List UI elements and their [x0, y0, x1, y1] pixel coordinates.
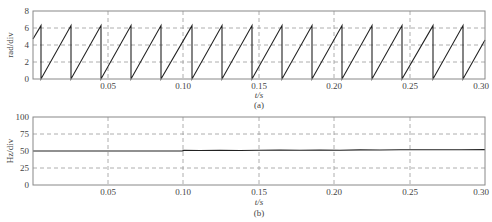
panel-b-xtick: 0.30	[473, 187, 489, 197]
panel-a-caption: (a)	[254, 100, 264, 110]
panel-b-ytick: 50	[20, 146, 30, 156]
panel-a-xtick: 0.30	[473, 81, 489, 91]
figure: 0 2 4 6 8 0.05 0.10 0.15 0.20 0.25 0.30 …	[0, 0, 492, 222]
panel-a-ytick: 6	[25, 23, 30, 33]
panel-a: 0 2 4 6 8 0.05 0.10 0.15 0.20 0.25 0.30 …	[5, 6, 489, 110]
panel-b-ytick: 75	[20, 129, 30, 139]
panel-a-ytick: 0	[25, 74, 30, 84]
panel-b-xtick: 0.20	[326, 187, 342, 197]
panel-a-xtick: 0.05	[100, 81, 116, 91]
panel-a-xtick: 0.10	[175, 81, 191, 91]
panel-b-ytick: 0	[25, 180, 30, 190]
panel-b-xtick: 0.15	[251, 187, 267, 197]
panel-b-frequency-trace	[33, 150, 485, 151]
panel-b-ylabel: Hz/div	[5, 138, 15, 163]
panel-a-ytick: 2	[25, 57, 30, 67]
panel-b: 0 25 50 75 100 0.05 0.10 0.15 0.20 0.25 …	[5, 112, 489, 218]
panel-b-ytick: 25	[20, 163, 30, 173]
panel-a-ytick: 4	[25, 40, 30, 50]
panel-a-xlabel: t/s	[255, 90, 264, 100]
panel-b-xtick: 0.05	[100, 187, 116, 197]
panel-b-ytick: 100	[16, 112, 30, 122]
panel-b-caption: (b)	[254, 208, 265, 218]
panel-b-xlabel: t/s	[255, 197, 264, 207]
panel-a-ylabel: rad/div	[5, 32, 15, 58]
panel-a-ytick: 8	[25, 6, 30, 16]
panel-b-xtick: 0.10	[175, 187, 191, 197]
panel-a-xtick: 0.20	[326, 81, 342, 91]
panel-b-xtick: 0.25	[402, 187, 418, 197]
panel-a-xtick: 0.25	[402, 81, 418, 91]
